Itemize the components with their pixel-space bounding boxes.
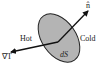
hot-label: Hot (20, 34, 33, 43)
gradient-label: ∇T (1, 52, 12, 61)
surface-label: dS (60, 50, 68, 59)
cold-label: Cold (80, 34, 96, 43)
normal-label: n̂ (86, 1, 90, 10)
heat-flux-diagram: n̂ Hot Cold dS ∇T (0, 0, 103, 73)
